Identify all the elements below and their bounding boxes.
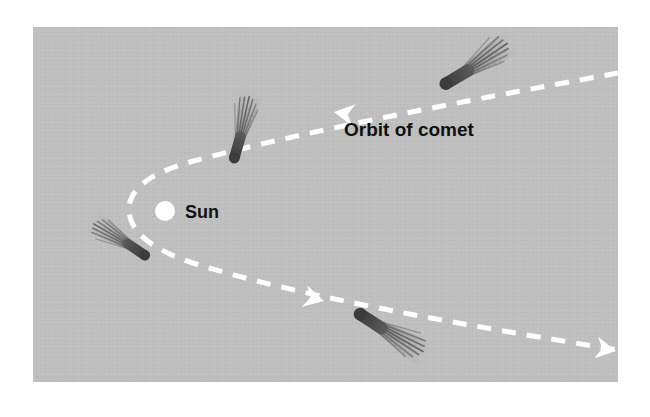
sun-marker [155,201,175,221]
orbit-label: Orbit of comet [344,119,475,140]
diagram-canvas: Orbit of comet Sun [0,0,650,417]
diagram-panel [33,27,618,382]
comet-orbit-figure: Orbit of comet Sun [0,0,650,417]
sun-label: Sun [185,202,219,222]
